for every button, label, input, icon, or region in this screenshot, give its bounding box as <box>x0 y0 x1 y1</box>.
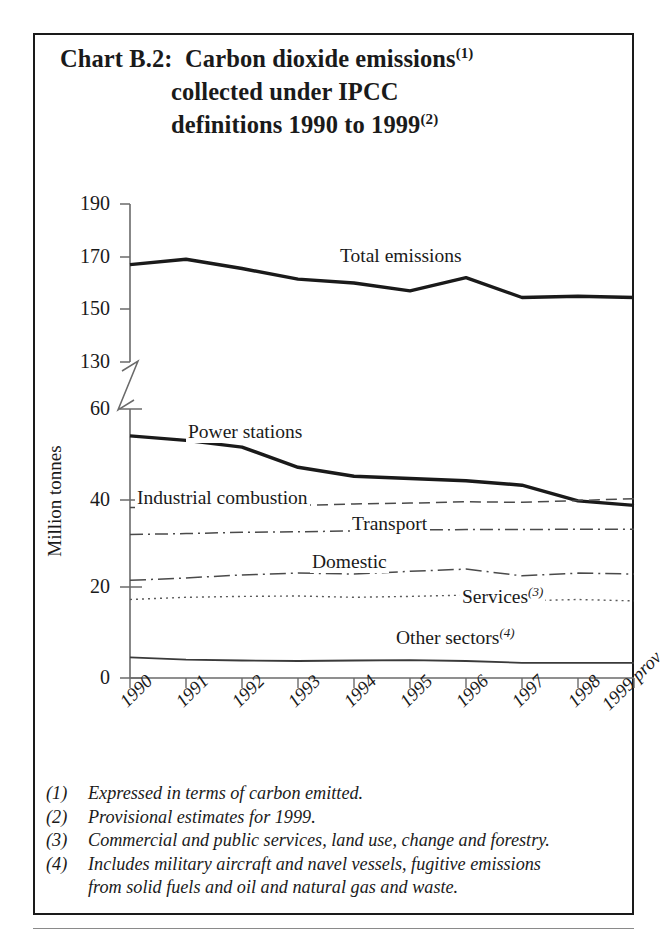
footnote-number-2: (2) <box>46 806 88 830</box>
footnote-text-4-line1: Includes military aircraft and navel ves… <box>88 854 541 874</box>
title-line-1: Chart B.2: Carbon dioxide emissions(1) <box>60 42 590 75</box>
title-text-3: definitions 1990 to 1999 <box>171 111 420 138</box>
title-footnote-ref-2: (2) <box>420 111 438 127</box>
page-bottom-rule <box>33 928 634 929</box>
footnote-row-3: (3) Commercial and public services, land… <box>46 829 621 853</box>
title-chart-number: Chart B.2: <box>60 45 173 72</box>
footnote-text-2: Provisional estimates for 1999. <box>88 806 621 830</box>
footnote-text-3: Commercial and public services, land use… <box>88 829 621 853</box>
footnote-text-1: Expressed in terms of carbon emitted. <box>88 782 621 806</box>
footnote-row-1: (1) Expressed in terms of carbon emitted… <box>46 782 621 806</box>
footnotes-block: (1) Expressed in terms of carbon emitted… <box>46 782 621 900</box>
footnote-text-4: Includes military aircraft and navel ves… <box>88 853 621 900</box>
title-text-1: Carbon dioxide emissions <box>185 45 456 72</box>
title-line-3: definitions 1990 to 1999(2) <box>60 108 590 141</box>
footnote-row-2: (2) Provisional estimates for 1999. <box>46 806 621 830</box>
footnote-number-3: (3) <box>46 829 88 853</box>
footnote-row-4: (4) Includes military aircraft and navel… <box>46 853 621 900</box>
footnote-number-1: (1) <box>46 782 88 806</box>
title-line-2: collected under IPCC <box>60 75 590 108</box>
footnote-number-4: (4) <box>46 853 88 877</box>
title-footnote-ref-1: (1) <box>456 45 474 61</box>
chart-title: Chart B.2: Carbon dioxide emissions(1) c… <box>60 42 590 141</box>
page-root: Chart B.2: Carbon dioxide emissions(1) c… <box>0 0 668 933</box>
footnote-text-4-line2: from solid fuels and oil and natural gas… <box>88 876 621 900</box>
